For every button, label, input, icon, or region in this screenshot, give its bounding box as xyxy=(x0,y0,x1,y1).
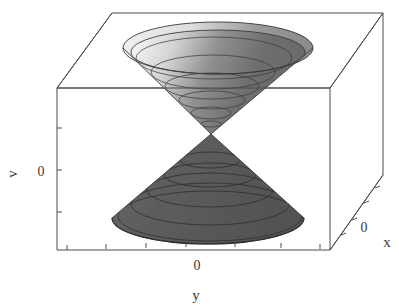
x-axis-label: x xyxy=(383,234,391,250)
lower-cone xyxy=(112,134,304,244)
box-edge-top-right-diagonal xyxy=(330,13,383,88)
lower-cone-body xyxy=(112,134,304,244)
upper-cone xyxy=(123,22,313,134)
figure-root: 0 v 0 y 0 x xyxy=(0,0,399,308)
v-axis-label: v xyxy=(4,170,20,178)
upper-cone-outer-wall xyxy=(123,22,313,134)
x-axis-tick-label-0: 0 xyxy=(361,220,368,235)
v-axis-ticks xyxy=(57,128,62,212)
box-edge-back-left-diagonal xyxy=(57,13,112,88)
double-cone-surface xyxy=(112,22,313,244)
tick xyxy=(375,186,380,188)
cone-surface-plot: 0 v 0 y 0 x xyxy=(0,0,399,308)
box-edge-bottom-right-diagonal xyxy=(330,175,383,250)
y-axis-tick-label-0: 0 xyxy=(194,258,201,273)
y-axis-label: y xyxy=(192,287,200,303)
v-axis-tick-label-0: 0 xyxy=(38,164,45,179)
